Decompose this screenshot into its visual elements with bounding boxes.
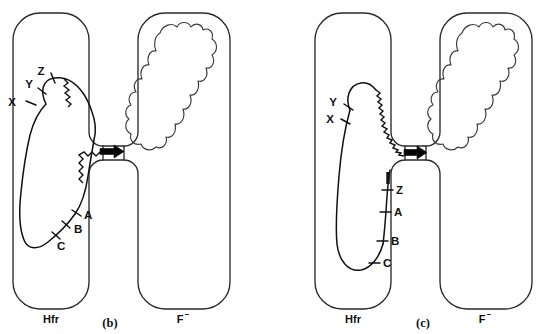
hfr-cell-wall-b — [13, 13, 103, 309]
marker-label-x-c: X — [326, 113, 334, 125]
panel-b-caption-svg: (b) — [0, 312, 272, 332]
fminus-nucleoid-b — [126, 23, 217, 150]
marker-label-c-c: C — [383, 257, 391, 269]
marker-label-c-b: C — [57, 240, 65, 252]
marker-label-y-c: Y — [329, 96, 337, 108]
hfr-cell-wall-c — [315, 13, 405, 309]
marker-tick-x-c — [341, 119, 350, 124]
panel-b: X Y Z A B C Hfr F − (b) — [0, 0, 272, 334]
marker-label-x-b: X — [8, 96, 16, 108]
marker-label-b-b: B — [74, 223, 82, 235]
panel-b-drawing: X Y Z A B C Hfr F − — [0, 0, 272, 334]
conjugation-figure: X Y Z A B C Hfr F − (b) — [0, 0, 543, 334]
transfer-arrow-c — [404, 146, 427, 159]
fminus-nucleoid-c — [428, 23, 519, 150]
zigzag-origin-b — [64, 79, 71, 107]
fminus-cell-wall-c — [426, 13, 532, 309]
panel-c-drawing: Y X Z A B C Hfr F − — [271, 0, 543, 334]
marker-label-y-b: Y — [25, 78, 33, 90]
marker-label-b-c: B — [391, 235, 399, 247]
marker-label-z-c: Z — [396, 184, 403, 196]
zigzag-transfer-c — [376, 90, 404, 156]
marker-label-a-b: A — [84, 209, 92, 221]
panel-c-caption-svg: (c) — [271, 312, 543, 332]
panel-caption-c: (c) — [416, 316, 430, 330]
marker-label-z-b: Z — [37, 65, 44, 77]
hfr-chromosome-left-limb-c — [336, 110, 383, 270]
fminus-cell-wall-b — [124, 13, 230, 309]
marker-tick-x-b — [26, 101, 36, 105]
panel-c: Y X Z A B C Hfr F − (c) — [271, 0, 543, 334]
marker-label-a-c: A — [394, 206, 402, 218]
panel-caption-b: (b) — [102, 316, 117, 330]
hfr-chromosome-open-c — [348, 83, 376, 110]
